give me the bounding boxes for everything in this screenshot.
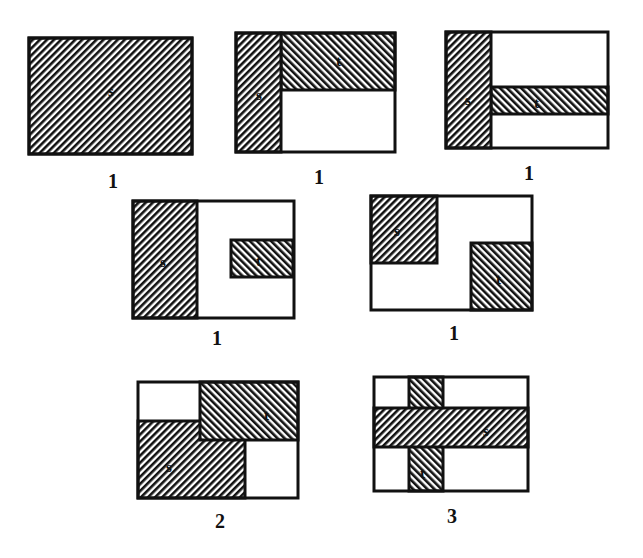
panel-4-count: 1 [212, 327, 222, 350]
panel-1-count: 1 [108, 170, 118, 193]
panel-3: ts [446, 32, 608, 148]
region-label-s: s [465, 92, 471, 108]
region-s [374, 408, 528, 447]
panel-5-count: 1 [449, 322, 459, 345]
region-t [200, 382, 298, 440]
diagram-canvas: ststsstststts [0, 0, 643, 558]
region-label-t: t [336, 53, 341, 69]
region-label-s: s [256, 87, 262, 103]
panel-4: st [133, 201, 294, 318]
panel-6-count: 2 [215, 510, 225, 533]
panel-6: st [138, 382, 298, 498]
panels-group: ststsstststts [29, 32, 608, 498]
region-t [471, 243, 532, 310]
region-s [371, 196, 437, 263]
region-t [231, 240, 293, 277]
region-label-s: s [108, 83, 114, 99]
region-label-t: t [256, 253, 261, 269]
panel-3-count: 1 [524, 162, 534, 185]
region-label-t: t [496, 271, 501, 287]
region-label-s: s [483, 423, 489, 439]
panel-7-count: 3 [447, 505, 457, 528]
panel-2: ts [236, 33, 395, 152]
panel-1: s [29, 38, 192, 154]
region-label-s: s [166, 459, 172, 475]
region-label-t: t [420, 465, 425, 481]
region-label-t: t [264, 407, 269, 423]
region-label-t: t [534, 95, 539, 111]
panel-2-count: 1 [314, 166, 324, 189]
region-s [446, 32, 491, 148]
region-t [491, 87, 608, 114]
region-label-s: s [160, 254, 166, 270]
region-label-s: s [394, 223, 400, 239]
panel-5: st [371, 196, 532, 310]
panel-7: ts [374, 377, 528, 491]
